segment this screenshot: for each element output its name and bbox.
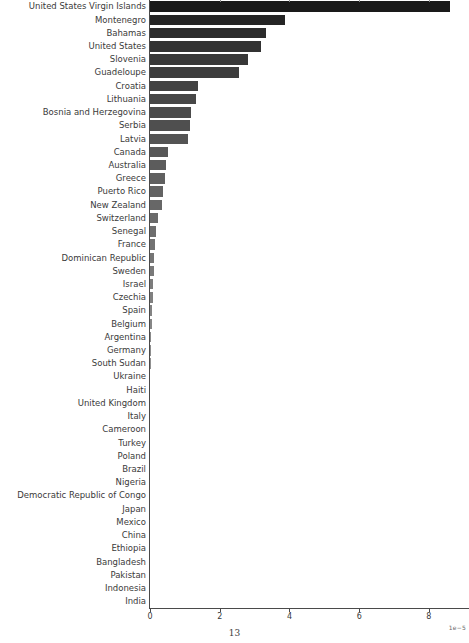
category-label: Argentina — [0, 333, 149, 342]
category-label: Turkey — [0, 439, 149, 448]
bar — [149, 173, 165, 184]
bar-row: Germany — [0, 344, 469, 357]
bar — [149, 147, 168, 158]
bar-row: Latvia — [0, 132, 469, 145]
bar-track — [149, 173, 469, 184]
bar — [149, 28, 266, 39]
category-label: Switzerland — [0, 214, 149, 223]
category-label: Sweden — [0, 267, 149, 276]
bar-row: Spain — [0, 304, 469, 317]
bar-row: Nigeria — [0, 476, 469, 489]
bar-row: Guadeloupe — [0, 66, 469, 79]
bar — [149, 186, 163, 197]
bar-track — [149, 107, 469, 118]
category-label: Dominican Republic — [0, 254, 149, 263]
bar-row: Belgium — [0, 317, 469, 330]
category-label: United States — [0, 42, 149, 51]
bar-track — [149, 557, 469, 568]
bar-track — [149, 583, 469, 594]
category-label: Ethiopia — [0, 544, 149, 553]
bar — [149, 1, 450, 12]
category-label: Greece — [0, 174, 149, 183]
category-label: Bangladesh — [0, 558, 149, 567]
category-label: Guadeloupe — [0, 68, 149, 77]
bar-track — [149, 28, 469, 39]
bar-row: Argentina — [0, 330, 469, 343]
bar-row: Greece — [0, 172, 469, 185]
bar-row: Indonesia — [0, 582, 469, 595]
category-label: Bahamas — [0, 29, 149, 38]
bar-row: Bangladesh — [0, 555, 469, 568]
bar-track — [149, 120, 469, 131]
bar-track — [149, 15, 469, 26]
bar-rows: United States Virgin IslandsMontenegroBa… — [0, 0, 469, 608]
bar-chart: United States Virgin IslandsMontenegroBa… — [0, 0, 469, 608]
bar-row: France — [0, 238, 469, 251]
bar-track — [149, 147, 469, 158]
bar-row: Montenegro — [0, 13, 469, 26]
bar — [149, 67, 239, 78]
x-tick-label: 6 — [349, 612, 369, 621]
bar-row: Bosnia and Herzegovina — [0, 106, 469, 119]
bar-track — [149, 134, 469, 145]
bar-row: Czechia — [0, 291, 469, 304]
bar-track — [149, 464, 469, 475]
category-label: Poland — [0, 452, 149, 461]
category-label: Brazil — [0, 465, 149, 474]
bar-row: Canada — [0, 145, 469, 158]
bar — [149, 81, 198, 92]
bar-row: Senegal — [0, 225, 469, 238]
x-tick-label: 4 — [279, 612, 299, 621]
category-label: Mexico — [0, 518, 149, 527]
bar-row: Mexico — [0, 516, 469, 529]
bar-row: Slovenia — [0, 53, 469, 66]
category-label: Slovenia — [0, 55, 149, 64]
document-page: United States Virgin IslandsMontenegroBa… — [0, 0, 469, 643]
bar — [149, 120, 190, 131]
bar — [149, 54, 248, 65]
x-axis-spine — [149, 608, 469, 609]
bar-track — [149, 266, 469, 277]
category-label: Haiti — [0, 386, 149, 395]
x-tick-label: 0 — [140, 612, 160, 621]
bar — [149, 94, 196, 105]
bar — [149, 41, 261, 52]
category-label: Nigeria — [0, 478, 149, 487]
bar-track — [149, 239, 469, 250]
category-label: Israel — [0, 280, 149, 289]
category-label: Indonesia — [0, 584, 149, 593]
page-number: 13 — [0, 628, 469, 638]
category-label: Pakistan — [0, 571, 149, 580]
category-label: Canada — [0, 148, 149, 157]
category-label: Ukraine — [0, 372, 149, 381]
bar-row: Pakistan — [0, 568, 469, 581]
bar-row: Sweden — [0, 264, 469, 277]
category-label: Spain — [0, 306, 149, 315]
bar-row: Puerto Rico — [0, 185, 469, 198]
bar — [149, 160, 166, 171]
bar-track — [149, 358, 469, 369]
bar-row: Australia — [0, 159, 469, 172]
category-label: New Zealand — [0, 201, 149, 210]
bar-track — [149, 186, 469, 197]
bar — [149, 134, 188, 145]
category-label: Australia — [0, 161, 149, 170]
bar-track — [149, 253, 469, 264]
category-label: United States Virgin Islands — [0, 2, 149, 11]
category-label: France — [0, 240, 149, 249]
bar-track — [149, 226, 469, 237]
category-label: Serbia — [0, 121, 149, 130]
bar-row: New Zealand — [0, 198, 469, 211]
bar-row: Dominican Republic — [0, 251, 469, 264]
bar-track — [149, 517, 469, 528]
bar-row: South Sudan — [0, 357, 469, 370]
top-tick-mark — [359, 0, 360, 2]
bar-track — [149, 94, 469, 105]
bar-track — [149, 200, 469, 211]
bar-track — [149, 570, 469, 581]
bar-track — [149, 596, 469, 607]
top-tick-mark — [429, 0, 430, 2]
bar-track — [149, 438, 469, 449]
category-label: Democratic Republic of Congo — [0, 491, 149, 500]
bar-track — [149, 490, 469, 501]
